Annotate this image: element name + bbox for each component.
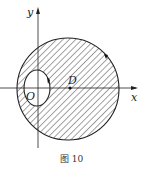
figure-caption: 图 10 <box>60 154 84 164</box>
center-label: D <box>67 74 77 87</box>
y-axis-label: y <box>26 6 34 19</box>
diagram-figure: y x O D 图 10 <box>0 0 145 170</box>
origin-label: O <box>26 90 35 103</box>
x-axis-label: x <box>131 91 138 104</box>
